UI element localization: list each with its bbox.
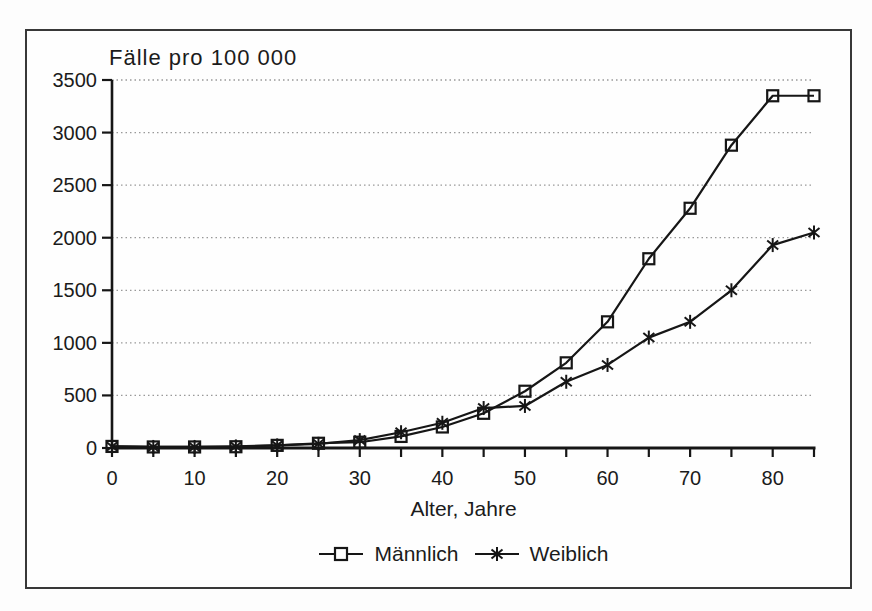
legend-label-maennlich: Männlich bbox=[374, 542, 458, 566]
svg-text:50: 50 bbox=[514, 467, 536, 489]
svg-text:70: 70 bbox=[679, 467, 701, 489]
legend-item-maennlich: Männlich bbox=[318, 542, 458, 566]
x-axis-label: Alter, Jahre bbox=[77, 497, 850, 521]
legend: Männlich Weiblich bbox=[77, 542, 850, 566]
svg-text:1500: 1500 bbox=[53, 279, 98, 301]
figure-frame: Fälle pro 100 000 0500100015002000250030… bbox=[25, 29, 852, 589]
svg-text:0: 0 bbox=[106, 467, 117, 489]
svg-text:2500: 2500 bbox=[53, 174, 98, 196]
page-background: Fälle pro 100 000 0500100015002000250030… bbox=[0, 0, 872, 611]
svg-text:0: 0 bbox=[86, 437, 97, 459]
svg-text:3500: 3500 bbox=[53, 69, 98, 91]
asterisk-marker-icon bbox=[474, 545, 520, 563]
svg-text:40: 40 bbox=[431, 467, 453, 489]
legend-label-weiblich: Weiblich bbox=[530, 542, 609, 566]
svg-text:20: 20 bbox=[266, 467, 288, 489]
svg-text:80: 80 bbox=[762, 467, 784, 489]
svg-text:500: 500 bbox=[64, 384, 97, 406]
svg-text:30: 30 bbox=[349, 467, 371, 489]
svg-text:2000: 2000 bbox=[53, 227, 98, 249]
legend-item-weiblich: Weiblich bbox=[474, 542, 609, 566]
svg-text:3000: 3000 bbox=[53, 122, 98, 144]
svg-text:60: 60 bbox=[596, 467, 618, 489]
square-marker-icon bbox=[318, 545, 364, 563]
svg-text:10: 10 bbox=[183, 467, 205, 489]
svg-text:1000: 1000 bbox=[53, 332, 98, 354]
